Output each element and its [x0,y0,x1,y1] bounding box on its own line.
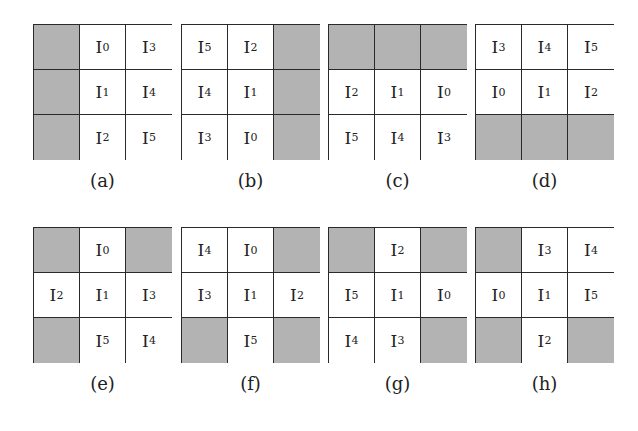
item-cell: I3 [375,318,421,363]
shaded-cell [522,115,568,160]
shaded-cell [476,228,522,273]
item-cell: I2 [329,70,375,115]
item-index: 3 [398,334,405,347]
shaded-cell [476,115,522,160]
item-index: 0 [499,289,506,302]
item-cell: I0 [476,70,522,115]
item-index: 2 [251,41,258,54]
shaded-cell [182,318,228,363]
grid-3x3: I4I0I3I1I2I5 [181,227,320,363]
item-cell: I3 [182,273,228,318]
item-cell: I2 [568,70,614,115]
item-cell: I3 [522,228,568,273]
panel-caption: (b) [181,170,320,191]
item-label: I [537,240,544,260]
panel-caption: (h) [475,373,614,394]
item-label: I [584,37,591,57]
shaded-cell [34,318,80,363]
panel-h: I3I4I0I1I5I2(h) [475,227,613,394]
item-label: I [95,82,102,102]
item-label: I [437,82,444,102]
item-label: I [243,128,250,148]
item-label: I [197,128,204,148]
item-cell: I4 [522,25,568,70]
item-label: I [537,37,544,57]
item-label: I [142,37,149,57]
item-label: I [243,82,250,102]
item-label: I [537,82,544,102]
item-cell: I1 [522,273,568,318]
item-cell: I1 [80,70,126,115]
item-index: 3 [499,41,506,54]
panel-c: I2I1I0I5I4I3(c) [328,24,466,191]
panel-caption: (c) [328,170,467,191]
item-index: 3 [205,131,212,144]
shaded-cell [568,318,614,363]
panel-caption: (d) [475,170,614,191]
item-label: I [49,285,56,305]
item-label: I [290,285,297,305]
item-cell: I4 [182,228,228,273]
item-cell: I4 [568,228,614,273]
shaded-cell [329,25,375,70]
item-cell: I0 [80,25,126,70]
shaded-cell [34,70,80,115]
item-label: I [95,37,102,57]
shaded-cell [568,115,614,160]
item-label: I [491,37,498,57]
item-cell: I4 [375,115,421,160]
shaded-cell [274,25,320,70]
item-label: I [390,285,397,305]
item-index: 4 [398,131,405,144]
item-label: I [142,82,149,102]
item-index: 0 [499,86,506,99]
item-cell: I3 [182,115,228,160]
shaded-cell [476,318,522,363]
item-label: I [243,240,250,260]
item-index: 3 [149,289,156,302]
panel-caption: (g) [328,373,467,394]
item-cell: I4 [126,318,172,363]
item-index: 0 [103,244,110,257]
item-index: 0 [251,131,258,144]
panel-caption: (a) [33,170,172,191]
item-index: 2 [297,289,304,302]
item-cell: I3 [126,273,172,318]
item-index: 1 [398,289,405,302]
item-label: I [243,285,250,305]
grid-3x3: I2I1I0I5I4I3 [328,24,467,160]
grid-3x3: I3I4I0I1I5I2 [475,227,614,363]
item-cell: I1 [228,70,274,115]
item-label: I [491,82,498,102]
shaded-cell [34,115,80,160]
item-index: 1 [545,289,552,302]
item-label: I [142,128,149,148]
panel-e: I0I2I1I3I5I4(e) [33,227,171,394]
item-cell: I4 [329,318,375,363]
item-cell: I1 [375,70,421,115]
item-label: I [197,82,204,102]
item-cell: I3 [126,25,172,70]
item-index: 2 [103,131,110,144]
item-label: I [95,240,102,260]
item-index: 1 [398,86,405,99]
grid-3x3: I0I2I1I3I5I4 [33,227,172,363]
item-index: 5 [205,41,212,54]
item-index: 3 [545,244,552,257]
item-index: 5 [352,131,359,144]
item-index: 5 [352,289,359,302]
item-cell: I2 [228,25,274,70]
grid-3x3: I5I2I4I1I3I0 [181,24,320,160]
grid-3x3: I0I3I1I4I2I5 [33,24,172,160]
shaded-cell [421,228,467,273]
item-label: I [243,331,250,351]
item-label: I [491,285,498,305]
shaded-cell [34,228,80,273]
item-cell: I2 [375,228,421,273]
shaded-cell [274,318,320,363]
item-cell: I5 [568,273,614,318]
item-cell: I5 [329,115,375,160]
item-cell: I1 [522,70,568,115]
item-label: I [390,128,397,148]
shaded-cell [274,70,320,115]
